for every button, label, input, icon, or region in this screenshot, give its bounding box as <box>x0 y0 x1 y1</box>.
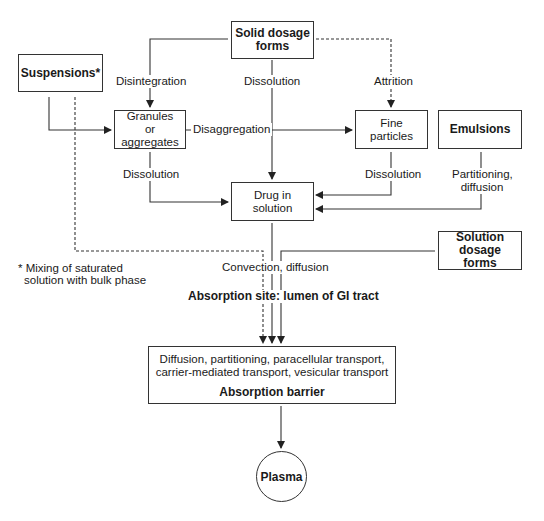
node-drug-in-solution: Drug in solution <box>231 182 314 221</box>
footnote-line-2: solution with bulk phase <box>24 274 146 287</box>
node-suspensions: Suspensions* <box>18 54 103 92</box>
node-granules: Granules or aggregates <box>114 110 186 149</box>
node-emulsions: Emulsions <box>438 110 522 149</box>
node-label: Solid dosage forms <box>232 27 313 53</box>
node-plasma: Plasma <box>256 451 307 502</box>
label-attrition: Attrition <box>374 75 413 88</box>
barrier-mechanisms-line-2: carrier-mediated transport, vesicular tr… <box>156 366 389 379</box>
node-label: Emulsions <box>450 123 511 136</box>
label-partitioning-line-2: diffusion <box>452 181 512 194</box>
barrier-mechanisms-line-1: Diffusion, partitioning, paracellular tr… <box>160 353 385 366</box>
node-fine-particles: Fine particles <box>355 110 428 149</box>
node-solution-dosage-forms: Solution dosage forms <box>438 231 522 270</box>
absorption-site-label: Absorption site: lumen of GI tract <box>186 290 381 303</box>
node-label: Solution dosage forms <box>449 231 511 270</box>
node-label: Granules or aggregates <box>121 110 179 149</box>
label-disintegration: Disintegration <box>116 75 186 88</box>
edge-disintegration <box>150 39 228 107</box>
node-label: Suspensions* <box>21 67 100 80</box>
label-convection: Convection, diffusion <box>222 261 329 274</box>
edge-suspensions-granules <box>49 97 111 130</box>
node-solid-dosage-forms: Solid dosage forms <box>231 21 314 59</box>
label-disaggregation: Disaggregation <box>191 123 272 136</box>
barrier-title: Absorption barrier <box>219 386 324 399</box>
edge-attrition <box>316 39 391 107</box>
label-solid-dissolution: Dissolution <box>244 75 300 88</box>
label-granules-dissolution: Dissolution <box>123 168 179 181</box>
node-absorption-barrier: Diffusion, partitioning, paracellular tr… <box>148 346 396 404</box>
label-fine-dissolution: Dissolution <box>365 168 421 181</box>
node-label: Plasma <box>260 470 302 484</box>
label-partitioning-line-1: Partitioning, <box>452 168 512 181</box>
node-label: Fine particles <box>370 117 413 143</box>
node-label: Drug in solution <box>248 189 297 215</box>
label-partitioning: Partitioning, diffusion <box>452 168 512 194</box>
